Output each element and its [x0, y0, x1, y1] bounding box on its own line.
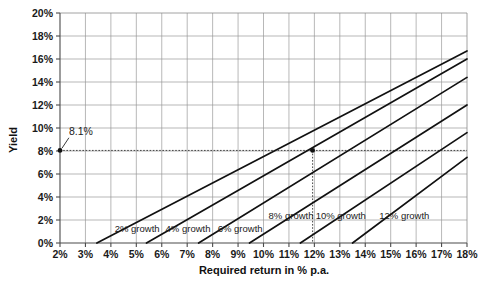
x-axis-tick-labels: 2%3%4%5%6%7%8%9%10%11%12%13%14%15%16%17%… — [52, 248, 478, 260]
x-tick-label: 10% — [253, 248, 275, 260]
intersection-marker-dot — [310, 148, 315, 153]
y-tick-label: 16% — [32, 53, 54, 65]
y-axis-tick-marks — [56, 13, 60, 243]
x-tick-label: 18% — [456, 248, 478, 260]
x-tick-label: 15% — [380, 248, 402, 260]
x-tick-label: 5% — [129, 248, 145, 260]
x-tick-label: 16% — [406, 248, 428, 260]
series-label: 12% growth — [379, 210, 429, 221]
annotation-labels: 8.1% — [69, 125, 93, 137]
x-tick-label: 11% — [279, 248, 300, 260]
y-tick-label: 4% — [38, 191, 54, 203]
y-tick-label: 10% — [32, 122, 54, 134]
x-axis-tick-marks — [60, 243, 467, 247]
x-tick-label: 2% — [52, 248, 68, 260]
series-label: 8% growth — [269, 210, 314, 221]
series-label: 4% growth — [166, 223, 211, 234]
chart-figure: 0%2%4%6%8%10%12%14%16%18%20% 2%3%4%5%6%7… — [0, 0, 488, 288]
y-tick-label: 18% — [32, 30, 54, 42]
y-tick-label: 2% — [38, 214, 54, 226]
x-tick-label: 13% — [329, 248, 351, 260]
y-axis-tick-labels: 0%2%4%6%8%10%12%14%16%18%20% — [32, 7, 54, 249]
series-label: 10% growth — [316, 210, 366, 221]
yield-annotation-text: 8.1% — [69, 125, 93, 137]
y-tick-label: 8% — [38, 145, 54, 157]
x-tick-label: 4% — [103, 248, 119, 260]
x-tick-label: 14% — [355, 248, 377, 260]
yield-annotation-dot — [58, 148, 63, 153]
y-tick-label: 12% — [32, 99, 54, 111]
x-tick-label: 12% — [304, 248, 326, 260]
y-tick-label: 20% — [32, 7, 54, 19]
series-label: 2% growth — [115, 223, 160, 234]
y-axis-title: Yield — [7, 127, 19, 153]
y-tick-label: 14% — [32, 76, 54, 88]
x-axis-title: Required return in % p.a. — [199, 264, 329, 276]
x-tick-label: 17% — [431, 248, 453, 260]
x-tick-label: 8% — [205, 248, 221, 260]
series-label: 6% growth — [218, 223, 263, 234]
x-tick-label: 3% — [78, 248, 94, 260]
x-tick-label: 6% — [154, 248, 170, 260]
yield-vs-required-return-chart: 0%2%4%6%8%10%12%14%16%18%20% 2%3%4%5%6%7… — [0, 0, 488, 288]
x-tick-label: 9% — [230, 248, 246, 260]
y-tick-label: 6% — [38, 168, 54, 180]
x-tick-label: 7% — [180, 248, 196, 260]
y-tick-label: 0% — [38, 237, 54, 249]
